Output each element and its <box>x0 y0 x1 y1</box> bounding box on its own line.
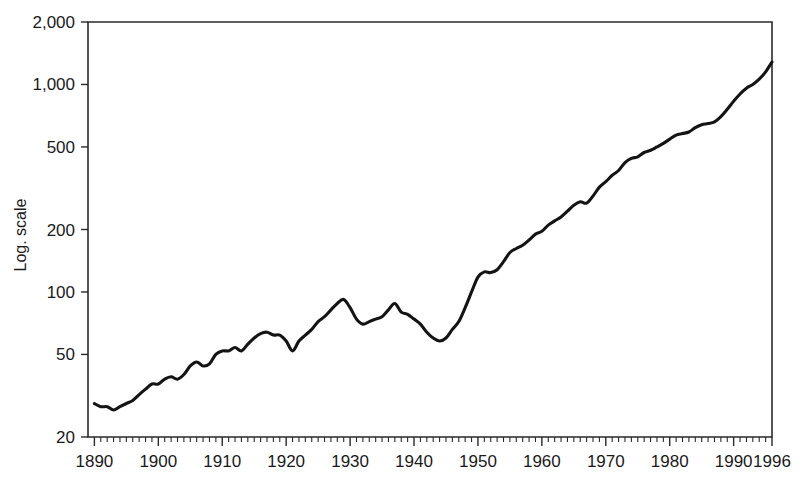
x-tick-label: 1900 <box>139 452 177 471</box>
x-tick-label: 1910 <box>203 452 241 471</box>
x-tick-label: 1920 <box>267 452 305 471</box>
series-line-index <box>94 62 772 410</box>
x-tick-label: 1960 <box>523 452 561 471</box>
y-tick-label: 200 <box>47 221 75 240</box>
y-tick-label: 500 <box>47 138 75 157</box>
y-tick-label: 2,000 <box>32 13 75 32</box>
plot-frame <box>88 22 772 437</box>
x-tick-label: 1940 <box>395 452 433 471</box>
series-group <box>94 62 772 410</box>
y-tick-label: 1,000 <box>32 75 75 94</box>
chart-figure: 2,0001,0005002001005020 1890190019101920… <box>0 0 804 489</box>
x-tick-label: 1990 <box>715 452 753 471</box>
x-tick-label: 1930 <box>331 452 369 471</box>
x-tick-label: 1950 <box>459 452 497 471</box>
y-tick-label: 20 <box>56 428 75 447</box>
y-axis-title: Log. scale <box>12 198 29 271</box>
x-tick-label: 1980 <box>651 452 689 471</box>
y-tick-label: 100 <box>47 283 75 302</box>
x-tick-label: 1890 <box>75 452 113 471</box>
y-tick-label: 50 <box>56 345 75 364</box>
log-scale-line-chart: 2,0001,0005002001005020 1890190019101920… <box>0 0 804 489</box>
x-tick-label: 1970 <box>587 452 625 471</box>
x-axis: 1890190019101920193019401950196019701980… <box>75 437 790 471</box>
y-axis: 2,0001,0005002001005020 <box>32 13 88 447</box>
x-tick-label: 1996 <box>753 452 791 471</box>
